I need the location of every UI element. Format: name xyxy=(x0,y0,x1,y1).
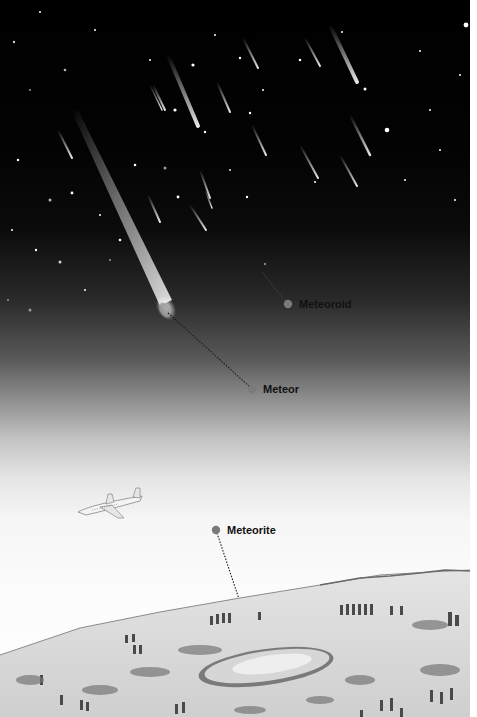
meteor-label: Meteor xyxy=(263,383,299,395)
meteorite-label: Meteorite xyxy=(227,524,276,536)
meteorite-marker-dot xyxy=(212,526,220,534)
scene-artwork xyxy=(0,0,470,717)
landscape xyxy=(0,570,470,717)
meteor-shower-streaks xyxy=(58,25,370,230)
main-meteor-fireball xyxy=(72,110,180,324)
illustration-canvas: Meteoroid Meteor Meteorite xyxy=(0,0,470,717)
meteor-marker-dot xyxy=(248,385,256,393)
meteoroid-label: Meteoroid xyxy=(299,298,352,310)
star-field xyxy=(7,11,468,312)
label-markers xyxy=(212,300,292,534)
meteoroid-marker-dot xyxy=(284,300,292,308)
right-margin xyxy=(470,0,477,717)
airplane-icon xyxy=(78,488,142,518)
